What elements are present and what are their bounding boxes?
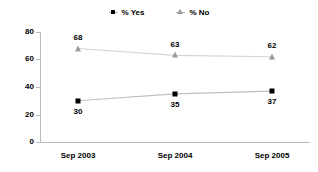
data-label-yes-1: 35 xyxy=(171,101,180,109)
data-point-yes-2 xyxy=(270,89,275,94)
y-tick-label-60: 60 xyxy=(14,55,34,63)
data-label-no-1: 63 xyxy=(171,41,180,49)
data-point-yes-1 xyxy=(173,91,178,96)
legend-label-no: % No xyxy=(189,9,209,17)
y-tick-label-40: 40 xyxy=(14,83,34,91)
x-tick-label-sep-2003: Sep 2003 xyxy=(61,152,96,160)
chart-legend: % Yes % No xyxy=(0,8,318,17)
legend-item-yes: % Yes xyxy=(109,8,145,17)
x-tick-label-sep-2004: Sep 2004 xyxy=(158,152,193,160)
data-label-yes-2: 37 xyxy=(268,98,277,106)
plot-area: 68 63 62 30 35 37 xyxy=(40,32,310,142)
data-label-no-2: 62 xyxy=(268,42,277,50)
data-point-no-1 xyxy=(172,52,178,58)
y-tick-label-20: 20 xyxy=(14,111,34,119)
triangle-marker-icon xyxy=(176,8,185,17)
data-label-no-0: 68 xyxy=(74,34,83,42)
legend-label-yes: % Yes xyxy=(122,9,145,17)
data-point-no-0 xyxy=(75,45,81,51)
y-tick-mark-0 xyxy=(36,142,40,143)
y-tick-label-0: 0 xyxy=(14,138,34,146)
data-point-no-2 xyxy=(269,53,275,59)
square-marker-icon xyxy=(109,8,118,17)
x-axis-line xyxy=(40,142,310,143)
line-chart: % Yes % No 80 60 40 20 0 xyxy=(0,0,318,172)
y-tick-label-80: 80 xyxy=(14,28,34,36)
legend-item-no: % No xyxy=(176,8,209,17)
data-label-yes-0: 30 xyxy=(74,108,83,116)
data-point-yes-0 xyxy=(76,98,81,103)
x-tick-label-sep-2005: Sep 2005 xyxy=(255,152,290,160)
